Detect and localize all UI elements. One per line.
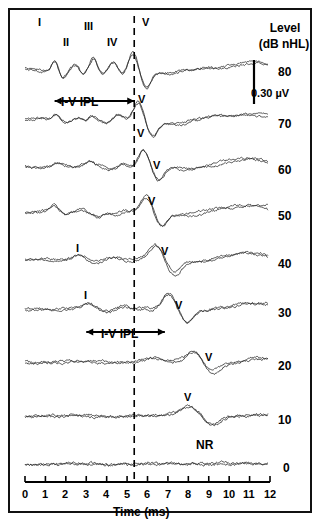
peak-label-I-30: I [84, 290, 87, 301]
no-response-label: NR [196, 439, 213, 451]
level-value-30: 30 [278, 307, 291, 319]
xtick-7: 7 [165, 489, 171, 500]
peak-label-IV: IV [107, 37, 117, 48]
waveform-trace-50-rep2 [25, 199, 268, 227]
waveform-trace-80-rep2 [25, 55, 268, 87]
xtick-1: 1 [42, 489, 48, 500]
level-header-units: (dB nHL) [249, 38, 319, 50]
waveform-trace-50-rep1 [25, 195, 268, 227]
xtick-9: 9 [206, 489, 212, 500]
abr-waveform-plot [0, 0, 322, 530]
xtick-11: 11 [243, 489, 255, 500]
waveform-trace-20-rep2 [25, 352, 268, 370]
level-value-40: 40 [278, 258, 291, 270]
peak-label-I-40: I [76, 243, 79, 254]
level-value-20: 20 [278, 360, 291, 372]
peak-label-III: III [84, 21, 93, 32]
xtick-5: 5 [124, 489, 130, 500]
level-header-title: Level [255, 22, 315, 34]
peak-label-V-70: V [138, 94, 145, 105]
level-value-10: 10 [278, 414, 291, 426]
waveform-trace-20-rep1 [25, 351, 268, 375]
waveform-trace-10-rep1 [25, 405, 268, 426]
xtick-2: 2 [62, 489, 68, 500]
ipl-label-top: I-V IPL [61, 96, 98, 108]
xtick-6: 6 [144, 489, 150, 500]
peak-label-V-40: V [148, 196, 155, 207]
level-value-50: 50 [278, 210, 291, 222]
peak-label-V-80: V [142, 17, 149, 28]
peak-label-V-10: V [205, 352, 212, 363]
xtick-4: 4 [103, 489, 109, 500]
level-value-80: 80 [278, 66, 291, 78]
xtick-12: 12 [264, 489, 276, 500]
ipl-arrow-top-head-right [127, 97, 134, 104]
peak-label-II: II [63, 37, 69, 48]
xtick-8: 8 [185, 489, 191, 500]
waveform-trace-30-rep2 [25, 294, 268, 323]
level-value-60: 60 [278, 164, 291, 176]
ipl-label-bottom: I-V IPL [101, 328, 138, 340]
peak-label-V-10b: V [184, 392, 191, 403]
peak-label-V-20: V [175, 300, 182, 311]
figure-root: I II III IV V V V V V V V V V I I NR I-V… [0, 0, 322, 530]
ipl-arrow-bottom-head-left [86, 328, 93, 335]
waveform-traces [25, 52, 268, 467]
xtick-10: 10 [223, 489, 235, 500]
scalebar-label: 0.30 µV [251, 88, 289, 99]
peak-label-V-60: V [137, 128, 144, 139]
ipl-arrow-bottom-head-right [158, 328, 165, 335]
level-value-70: 70 [278, 118, 291, 130]
x-axis-title: Time (ms) [113, 506, 169, 518]
xtick-0: 0 [22, 489, 28, 500]
peak-label-V-30: V [161, 246, 168, 257]
level-value-0: 0 [283, 462, 290, 474]
xtick-3: 3 [83, 489, 89, 500]
waveform-trace-80-rep1 [25, 52, 268, 90]
peak-label-I: I [38, 17, 41, 28]
peak-label-V-50: V [153, 160, 160, 171]
waveform-trace-40-rep1 [25, 244, 268, 277]
